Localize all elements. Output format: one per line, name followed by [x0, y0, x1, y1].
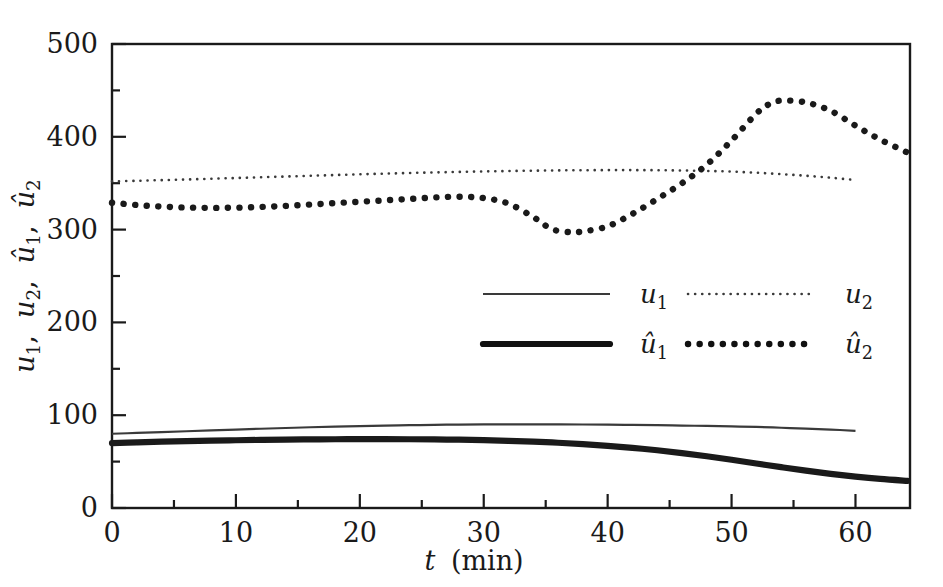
x-tick-label: 40 — [590, 517, 624, 548]
y-tick-label: 300 — [46, 214, 98, 245]
line-chart: 0102030405060 0100200300400500 t (min) u… — [0, 0, 943, 587]
x-tick-label: 60 — [838, 517, 872, 548]
x-tick-label: 0 — [103, 517, 120, 548]
y-tick-label: 100 — [46, 399, 98, 430]
y-tick-label: 400 — [46, 121, 98, 152]
svg-text:u1, u2, û1,: u1, u2, û1, û2 — [9, 179, 44, 373]
x-axis-title-unit: (min) — [451, 545, 524, 576]
y-tick-label: 200 — [46, 306, 98, 337]
x-tick-label: 50 — [714, 517, 748, 548]
x-tick-label: 20 — [343, 517, 377, 548]
x-tick-label: 10 — [219, 517, 253, 548]
figure-container: 0102030405060 0100200300400500 t (min) u… — [0, 0, 943, 587]
y-axis-title: u1, u2, û1, û2 — [9, 179, 44, 373]
y-tick-label: 0 — [81, 492, 98, 523]
x-axis-title: t (min) — [424, 545, 523, 576]
y-tick-label: 500 — [46, 28, 98, 59]
x-axis-title-var: t — [424, 545, 435, 576]
svg-text:t (min): t (min) — [424, 545, 523, 576]
x-tick-label: 30 — [467, 517, 501, 548]
